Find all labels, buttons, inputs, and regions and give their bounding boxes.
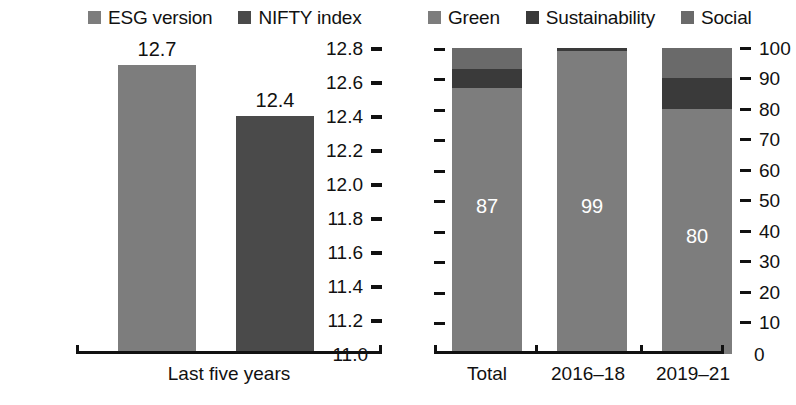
chart-figure: ESG version NIFTY index 12.8 12.6 12.4 1… xyxy=(0,0,796,405)
ytick-mirror-11-2 xyxy=(371,320,382,323)
legend-item-green: Green xyxy=(428,8,500,27)
segment-2016-18-green: 99 xyxy=(557,51,627,354)
bar-value-esg-version: 12.7 xyxy=(118,39,196,59)
ytick-mirror-70 xyxy=(434,139,445,142)
left-chart-panel: ESG version NIFTY index 12.8 12.6 12.4 1… xyxy=(0,0,400,405)
ytick-mirror-11-6 xyxy=(371,252,382,255)
segment-2016-18-sustainability xyxy=(557,48,627,51)
ytick-30: 30 xyxy=(740,252,780,271)
legend-item-esg-version: ESG version xyxy=(88,8,212,27)
bar-esg-version[interactable]: 12.7 xyxy=(118,65,196,354)
ytick-mirror-12-6 xyxy=(371,82,382,85)
segment-value-2016-18-green: 99 xyxy=(557,196,627,216)
ytick-100: 100 xyxy=(740,39,791,58)
right-plot-area: 100 90 80 70 60 50 40 30 20 10 0 87 99 xyxy=(434,48,724,354)
xtick-divider-1 xyxy=(535,345,538,354)
ytick-80: 80 xyxy=(740,100,780,119)
segment-2019-21-sustainability xyxy=(662,78,732,109)
legend-label-sustainability: Sustainability xyxy=(546,8,655,27)
ytick-20: 20 xyxy=(740,283,780,302)
left-x-axis-cap-end xyxy=(379,345,382,354)
xtick-divider-2 xyxy=(640,345,643,354)
right-chart-panel: Green Sustainability Social xyxy=(400,0,796,405)
segment-value-total-green: 87 xyxy=(452,196,522,216)
segment-value-2019-21-green: 80 xyxy=(662,226,732,246)
left-plot-area: 12.8 12.6 12.4 12.2 12.0 11.8 11.6 11.4 … xyxy=(76,48,382,354)
legend-swatch-esg-version xyxy=(88,11,101,24)
legend-swatch-social xyxy=(681,11,694,24)
legend-label-green: Green xyxy=(448,8,500,27)
left-x-axis-line xyxy=(76,351,382,354)
ytick-mirror-12-8 xyxy=(371,48,382,51)
right-x-axis-cap-end xyxy=(721,345,724,354)
ytick-11-0: 11.0 xyxy=(332,345,368,364)
segment-2019-21-green: 80 xyxy=(662,109,732,354)
bar-value-nifty-index: 12.4 xyxy=(236,90,314,110)
ytick-mirror-10 xyxy=(434,322,445,325)
ytick-40: 40 xyxy=(740,222,780,241)
ytick-mirror-11-4 xyxy=(371,286,382,289)
ytick-mirror-90 xyxy=(434,78,445,81)
stacked-bar-total[interactable]: 87 xyxy=(452,48,522,354)
ytick-mirror-30 xyxy=(434,261,445,264)
ytick-10: 10 xyxy=(740,313,780,332)
xlabel-last-five-years: Last five years xyxy=(76,364,382,383)
legend-item-sustainability: Sustainability xyxy=(526,8,655,27)
ytick-mirror-40 xyxy=(434,231,445,234)
legend-label-nifty-index: NIFTY index xyxy=(258,8,361,27)
ytick-70: 70 xyxy=(740,130,780,149)
xlabel-2016-18: 2016–18 xyxy=(538,364,638,383)
legend-swatch-nifty-index xyxy=(238,11,251,24)
stacked-bar-2016-18[interactable]: 99 xyxy=(557,48,627,354)
ytick-mirror-80 xyxy=(434,109,445,112)
ytick-mirror-60 xyxy=(434,170,445,173)
left-chart-legend: ESG version NIFTY index xyxy=(88,8,362,27)
xlabel-total: Total xyxy=(437,364,537,383)
ytick-mirror-20 xyxy=(434,292,445,295)
ytick-mirror-12-4 xyxy=(371,116,382,119)
legend-item-nifty-index: NIFTY index xyxy=(238,8,361,27)
right-x-axis-cap-start xyxy=(434,345,437,354)
bar-nifty-index[interactable]: 12.4 xyxy=(236,116,314,354)
xlabel-2019-21: 2019–21 xyxy=(643,364,743,383)
legend-label-social: Social xyxy=(701,8,752,27)
right-x-axis-line xyxy=(434,351,724,354)
ytick-50: 50 xyxy=(740,191,780,210)
ytick-mirror-100 xyxy=(434,48,445,51)
segment-2019-21-social xyxy=(662,48,732,78)
right-chart-legend: Green Sustainability Social xyxy=(428,8,752,27)
legend-swatch-sustainability xyxy=(526,11,539,24)
segment-total-green: 87 xyxy=(452,88,522,354)
legend-swatch-green xyxy=(428,11,441,24)
ytick-mirror-12-0 xyxy=(371,184,382,187)
segment-total-social xyxy=(452,48,522,69)
ytick-0: 0 xyxy=(754,345,765,364)
segment-total-sustainability xyxy=(452,69,522,88)
left-x-axis-cap-start xyxy=(76,345,79,354)
stacked-bar-2019-21[interactable]: 80 xyxy=(662,48,732,354)
ytick-mirror-12-2 xyxy=(371,150,382,153)
ytick-mirror-50 xyxy=(434,200,445,203)
ytick-60: 60 xyxy=(740,161,780,180)
legend-item-social: Social xyxy=(681,8,752,27)
ytick-mirror-11-8 xyxy=(371,218,382,221)
legend-label-esg-version: ESG version xyxy=(108,8,212,27)
ytick-90: 90 xyxy=(740,69,780,88)
